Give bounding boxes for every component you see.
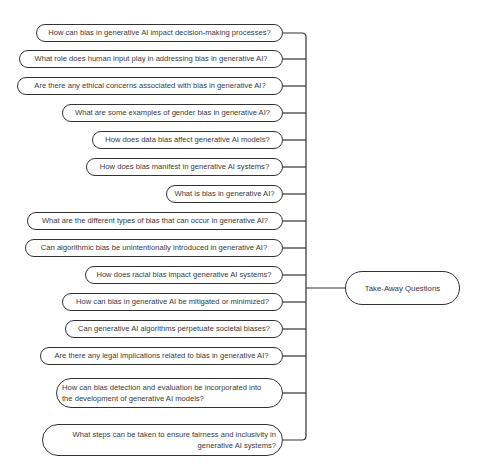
question-node[interactable]: What role does human input play in addre… <box>19 50 283 68</box>
question-node[interactable]: How can bias in generative AI impact dec… <box>36 24 283 42</box>
question-node[interactable]: What steps can be taken to ensure fairne… <box>42 424 283 456</box>
question-node[interactable]: How does data bias affect generative AI … <box>92 131 283 149</box>
question-node[interactable]: How can bias detection and evaluation be… <box>56 378 283 408</box>
central-node-take-away-questions[interactable]: Take-Away Questions <box>345 271 460 305</box>
question-node[interactable]: Can generative AI algorithms perpetuate … <box>65 320 283 338</box>
question-node[interactable]: How does racial bias impact generative A… <box>85 266 283 284</box>
question-node[interactable]: Are there any legal implications related… <box>40 347 283 365</box>
question-node[interactable]: Can algorithmic bias be unintentionally … <box>25 239 283 257</box>
question-node[interactable]: Are there any ethical concerns associate… <box>17 77 283 95</box>
question-node[interactable]: What are some examples of gender bias in… <box>62 104 283 122</box>
question-node[interactable]: What is bias in generative AI? <box>166 185 283 203</box>
question-node[interactable]: How does bias manifest in generative AI … <box>86 158 283 176</box>
question-node[interactable]: What are the different types of bias tha… <box>27 212 283 230</box>
question-node[interactable]: How can bias in generative AI be mitigat… <box>62 293 283 311</box>
